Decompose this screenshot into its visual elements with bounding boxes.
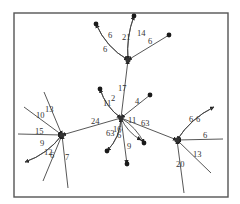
center-leaf-2 xyxy=(148,93,153,98)
right-hub xyxy=(174,137,179,142)
edge-weight-label: 6 xyxy=(117,130,121,140)
edge-weight-label: 4 xyxy=(135,96,140,106)
edge-weight-label: 11 xyxy=(103,98,111,108)
edge-weight-label: 13 xyxy=(45,104,54,114)
edge-weight-label: 6 xyxy=(108,30,112,40)
left-hub xyxy=(59,132,64,137)
edge-weight-label: 63 xyxy=(141,118,150,128)
edge-weight-label: 21 xyxy=(122,32,131,42)
edge-weight-label: 10 xyxy=(36,110,45,120)
center-leaf-1 xyxy=(98,87,103,92)
edge-weight-label: 20 xyxy=(176,159,185,169)
edge-weight-label: 15 xyxy=(35,126,44,136)
top-leaf-2 xyxy=(132,14,137,19)
graph-diagram: 6621146172114241163631669131015912676661… xyxy=(0,0,240,204)
edge-weight-label: 11 xyxy=(128,115,136,125)
edge-weight-label: 24 xyxy=(91,116,100,126)
edge-weight-label: 17 xyxy=(118,83,127,93)
edge-weight-label: 6 xyxy=(189,114,193,124)
edge-weight-label: 6 xyxy=(203,130,207,140)
top-leaf-3 xyxy=(167,33,172,38)
edge-weight-label: 2 xyxy=(111,93,115,103)
edge-weight-label: 9 xyxy=(127,141,131,151)
edge-weight-label: 6 xyxy=(103,44,107,54)
center-leaf-3 xyxy=(142,141,147,146)
edge-weight-label: 13 xyxy=(193,149,202,159)
edge-weight-label: 6 xyxy=(50,150,54,160)
labels-layer: 6621146172114241163631669131015912676661… xyxy=(35,28,207,169)
edge-weight-label: 14 xyxy=(137,28,146,38)
top-leaf-1 xyxy=(94,22,99,27)
center-hub xyxy=(118,115,123,120)
edge-weight-label: 6 xyxy=(196,114,200,124)
center-leaf-4 xyxy=(105,149,110,154)
center-leaf-5 xyxy=(125,162,130,167)
edge-r2-to-R xyxy=(177,139,223,140)
edge-weight-label: 7 xyxy=(65,152,69,162)
edge-weight-label: 6 xyxy=(148,36,152,46)
top-hub xyxy=(125,57,130,62)
